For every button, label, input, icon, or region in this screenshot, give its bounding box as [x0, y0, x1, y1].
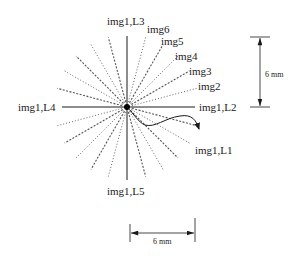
- radial-line-315: [131, 111, 178, 158]
- radial-line-75: [128, 37, 145, 102]
- radial-line-105: [108, 37, 125, 102]
- label-img6: img6: [147, 23, 170, 35]
- radial-line-255: [108, 112, 125, 177]
- horizontal-dimension-label: 6 mm: [153, 237, 172, 246]
- curved-arrow-l1: [127, 107, 199, 129]
- vertical-dimension-label: 6 mm: [265, 70, 284, 79]
- radial-line-135: [76, 56, 123, 103]
- label-l2: img1,L2: [199, 101, 237, 113]
- radial-line-30: [131, 71, 189, 105]
- label-img3: img3: [189, 65, 212, 77]
- radial-line-150: [65, 71, 123, 105]
- radial-line-60: [130, 45, 164, 103]
- radial-line-225: [76, 111, 123, 158]
- horizontal-dimension: 6 mm: [130, 218, 195, 246]
- label-l3: img1,L3: [107, 15, 145, 27]
- radial-line-165: [57, 88, 122, 105]
- radial-line-195: [57, 108, 122, 125]
- radial-line-300: [130, 111, 164, 169]
- label-l5: img1,L5: [107, 185, 145, 197]
- radial-line-120: [91, 45, 125, 103]
- label-img4: img4: [175, 50, 198, 62]
- radial-line-330: [131, 110, 189, 144]
- radial-line-210: [65, 110, 123, 144]
- vertical-dimension: 6 mm: [250, 37, 284, 107]
- label-l4: img1,L4: [18, 101, 56, 113]
- label-img2: img2: [198, 80, 221, 92]
- radial-line-285: [128, 112, 145, 177]
- label-img5: img5: [161, 35, 184, 47]
- radial-line-15: [132, 88, 197, 105]
- label-l1: img1,L1: [195, 144, 233, 156]
- radial-line-240: [91, 111, 125, 169]
- diagram-canvas: img1,L3 img6 img5 img4 img3 img2 img1,L2…: [0, 0, 301, 261]
- radial-line-45: [131, 56, 178, 103]
